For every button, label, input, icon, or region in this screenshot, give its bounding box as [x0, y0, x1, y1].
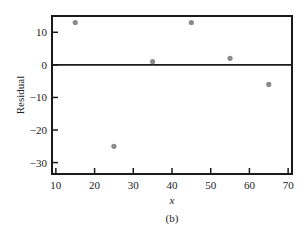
x-tick-label: 20 — [89, 179, 101, 191]
x-tick-label: 10 — [50, 179, 62, 191]
y-tick-label: −10 — [30, 91, 48, 103]
data-point — [150, 59, 155, 64]
x-axis-title: x — [169, 194, 175, 206]
x-tick-label: 30 — [128, 179, 140, 191]
residual-plot: −30−20−10010 10203040506070 Residual x (… — [0, 0, 308, 230]
figure-caption: (b) — [166, 212, 179, 225]
y-tick-label: 10 — [36, 26, 48, 38]
x-tick-label: 40 — [167, 179, 179, 191]
data-point — [227, 56, 232, 61]
data-point — [73, 20, 78, 25]
x-tick-label: 60 — [244, 179, 256, 191]
data-points — [73, 20, 272, 149]
x-tick-label: 70 — [283, 179, 295, 191]
x-tick-label: 50 — [205, 179, 217, 191]
y-tick-label: 0 — [42, 59, 48, 71]
y-axis-title: Residual — [14, 76, 26, 115]
y-tick-label: −30 — [30, 157, 48, 169]
data-point — [266, 82, 271, 87]
data-point — [111, 144, 116, 149]
x-axis-ticks: 10203040506070 — [50, 168, 294, 191]
y-axis-ticks: −30−20−10010 — [30, 26, 58, 168]
plot-frame — [52, 16, 292, 174]
data-point — [189, 20, 194, 25]
y-tick-label: −20 — [30, 124, 48, 136]
